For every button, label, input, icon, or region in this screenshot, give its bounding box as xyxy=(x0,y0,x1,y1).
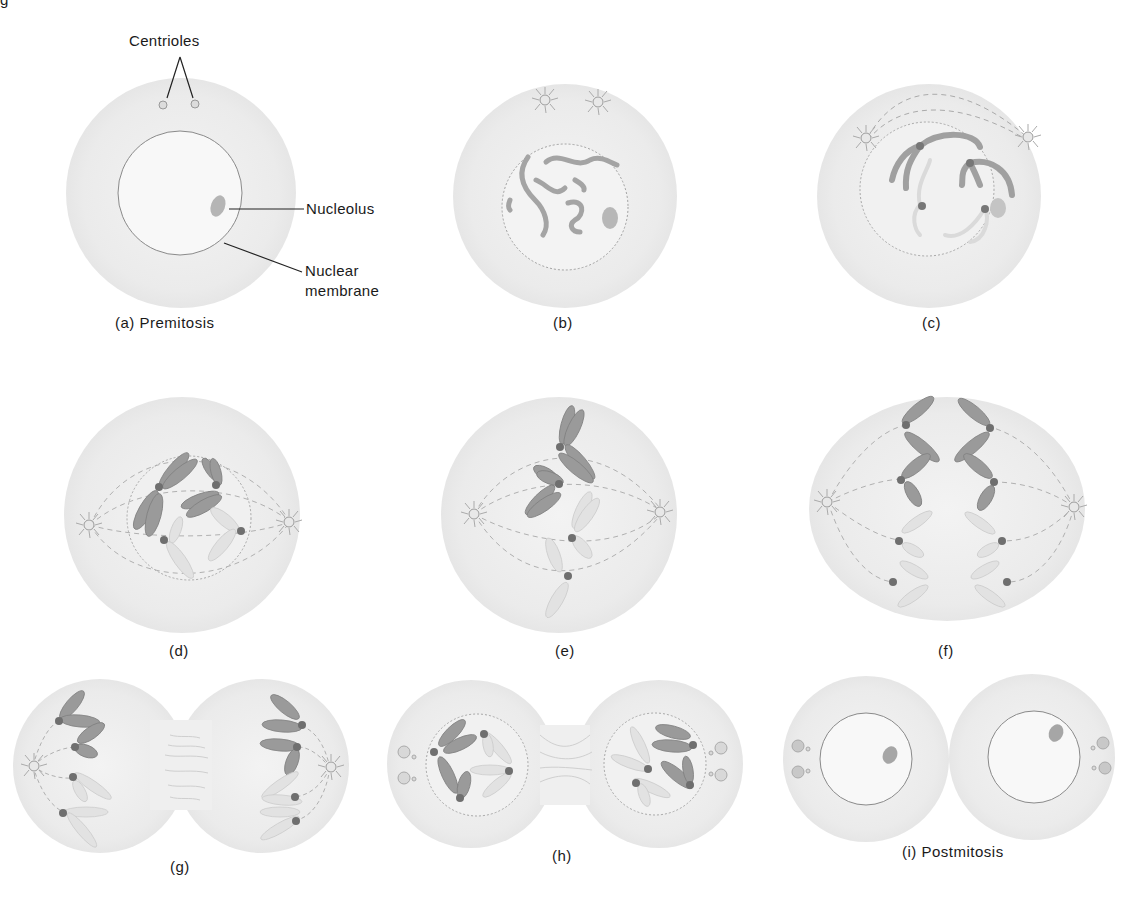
centrioles-label: Centrioles xyxy=(129,32,200,49)
panel-f xyxy=(809,393,1087,621)
caption-i: (i) Postmitosis xyxy=(902,843,1004,860)
nucleolus-label: Nucleolus xyxy=(306,200,375,217)
panel-e xyxy=(441,397,677,633)
caption-e: (e) xyxy=(555,642,575,659)
panel-c xyxy=(817,84,1041,308)
panel-d xyxy=(64,397,302,633)
panel-h xyxy=(387,680,743,848)
caption-c: (c) xyxy=(922,314,941,331)
caption-f: (f) xyxy=(938,642,954,659)
centriole-icon xyxy=(159,101,167,109)
caption-a: (a) Premitosis xyxy=(115,314,215,331)
panel-i-postmitosis xyxy=(783,674,1115,842)
caption-g: (g) xyxy=(170,858,190,875)
caption-h: (h) xyxy=(552,847,572,864)
mitosis-diagram xyxy=(0,0,1138,900)
panel-a-premitosis xyxy=(66,57,304,308)
nuclear-membrane-label-line2: membrane xyxy=(305,282,379,299)
centriole-icon xyxy=(191,100,199,108)
panel-g xyxy=(13,679,349,853)
panel-b xyxy=(453,84,677,308)
nuclear-membrane-label-line1: Nuclear xyxy=(305,262,359,279)
caption-d: (d) xyxy=(169,642,189,659)
caption-b: (b) xyxy=(553,314,573,331)
